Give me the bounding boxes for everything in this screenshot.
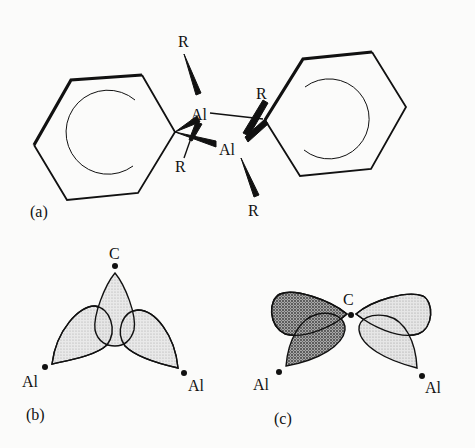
al-bottom-label: Al: [219, 141, 236, 158]
al-top-label: Al: [191, 106, 208, 123]
r-bridge-left-label: R: [175, 158, 186, 175]
al-right-atom-dot-icon: [181, 370, 187, 376]
panel-c-caption: (c): [274, 410, 292, 428]
panel-b: [42, 263, 187, 376]
left-phenyl-ring: [34, 75, 175, 200]
panel-b-caption: (b): [26, 406, 45, 424]
panel-c-al-right-label: Al: [425, 379, 442, 396]
aromatic-circle-right-icon: [304, 79, 369, 159]
right-phenyl-ring: [265, 52, 406, 176]
panel-c-al-left-label: Al: [253, 376, 270, 393]
al-left-atom-dot-icon: [42, 364, 48, 370]
orbital-diagram-figure: R Al R Al R R (a) C Al Al (b): [0, 0, 475, 448]
carbon-atom-dot-icon: [348, 312, 354, 318]
panel-b-al-left-label: Al: [22, 373, 39, 390]
panel-a: R Al R Al R R (a): [30, 33, 406, 221]
aromatic-circle-left-icon: [66, 90, 135, 174]
bridge-bonds: [175, 54, 268, 197]
al-left-atom-dot-icon: [276, 369, 282, 375]
panel-b-c-label: C: [109, 245, 120, 262]
panel-a-caption: (a): [30, 203, 48, 221]
r-top-label: R: [178, 33, 189, 50]
r-bridge-right-label: R: [256, 85, 267, 102]
carbon-atom-dot-icon: [112, 263, 118, 269]
panel-b-al-right-label: Al: [188, 377, 205, 394]
panel-c-c-label: C: [343, 291, 354, 308]
orbital-lobe-top-icon: [95, 273, 135, 346]
r-bottom-label: R: [248, 202, 259, 219]
